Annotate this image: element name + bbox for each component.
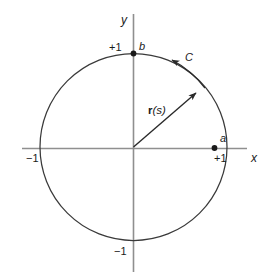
vector-argument: (s) <box>152 104 165 116</box>
unit-circle-figure: y +1 b C r(s) a +1 x −1 −1 <box>0 0 278 279</box>
x-axis-tick-positive-one: +1 <box>214 153 227 164</box>
position-vector-label: r(s) <box>148 105 166 117</box>
y-axis-tick-negative-one: −1 <box>114 246 127 257</box>
x-axis-tick-negative-one: −1 <box>26 153 39 164</box>
curve-c-label: C <box>185 52 193 63</box>
point-a-label: a <box>220 133 226 144</box>
y-axis-tick-positive-one: +1 <box>109 42 122 53</box>
x-axis-label: x <box>251 152 257 164</box>
point-a-marker <box>212 145 218 151</box>
y-axis-label: y <box>121 14 127 26</box>
position-vector-arrow <box>134 93 197 147</box>
point-b-label: b <box>139 41 145 52</box>
point-b-marker <box>131 51 137 57</box>
